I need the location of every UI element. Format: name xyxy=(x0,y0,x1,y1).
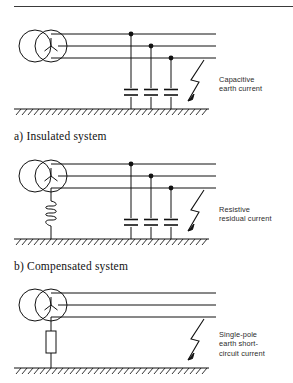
caption-insulated: a) Insulated system xyxy=(14,130,107,142)
earthing-resistor-symbol xyxy=(46,331,56,353)
capacitor-plates xyxy=(124,90,178,96)
earth-ground xyxy=(14,109,209,115)
circuit-svg-earthed xyxy=(0,277,293,377)
phase-lines xyxy=(51,293,216,317)
annotation-compensated: Resistive residual current xyxy=(219,205,272,224)
fault-lightning-bolt-icon xyxy=(188,319,204,360)
phase-lines xyxy=(51,164,216,188)
annotation-insulated: Capacitive earth current xyxy=(219,75,262,94)
earth-ground xyxy=(14,368,209,374)
circuit-svg-insulated xyxy=(0,18,293,118)
caption-compensated: b) Compensated system xyxy=(14,260,128,272)
fault-lightning-bolt-icon xyxy=(188,60,204,101)
figure-page: Capacitive earth current a) Insulated sy… xyxy=(0,0,293,383)
phase-lines xyxy=(51,34,216,58)
fault-lightning-bolt-icon xyxy=(188,190,204,231)
circuit-svg-compensated xyxy=(0,148,293,248)
capacitor-plates xyxy=(124,220,178,226)
compensation-coil-symbol xyxy=(46,201,57,226)
earth-ground xyxy=(14,239,209,245)
top-rule xyxy=(14,6,293,7)
annotation-earthed: Single-pole earth short- circuit current xyxy=(219,330,265,358)
